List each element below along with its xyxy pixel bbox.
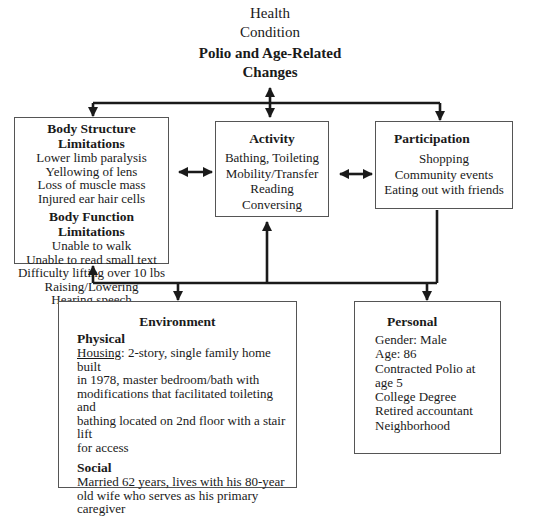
list-item: Unable to read small text: [15, 253, 168, 267]
list-item: Neighborhood: [375, 419, 496, 433]
list-item: Lower limb paralysis: [15, 151, 168, 165]
participation-header: Participation: [376, 131, 512, 146]
list-item: Conversing: [216, 197, 328, 213]
housing-line: in 1978, master bedroom/bath with: [77, 373, 288, 387]
personal-header: Personal: [375, 314, 496, 329]
title-line: Polio and Age-Related: [170, 44, 370, 63]
list-item: Community events: [376, 167, 512, 183]
label-line: Health: [170, 4, 370, 23]
health-condition-label: Health Condition: [170, 4, 370, 42]
list-item: Yellowing of lens: [15, 165, 168, 179]
list-item: College Degree: [375, 390, 496, 404]
list-item: Mobility/Transfer: [216, 166, 328, 182]
list-item: Eating out with friends: [376, 182, 512, 198]
housing-line: modifications that facilitated toileting…: [77, 387, 288, 414]
social-line: old wife who serves as his primary: [77, 489, 288, 503]
list-item: Age: 86: [375, 347, 496, 361]
physical-header: Physical: [77, 331, 288, 346]
list-item: Difficulty lifting over 10 lbs: [15, 266, 168, 280]
title-line: Changes: [170, 63, 370, 82]
list-item: Unable to walk: [15, 239, 168, 253]
list-item: Injured ear hair cells: [15, 192, 168, 206]
body-limitations-box: Body Structure Limitations Lower limb pa…: [14, 117, 169, 264]
list-item: Shopping: [376, 151, 512, 167]
body-structure-header: Body Structure Limitations: [15, 121, 168, 151]
social-header: Social: [77, 460, 288, 475]
list-item: Bathing, Toileting: [216, 150, 328, 166]
list-item: age 5: [375, 376, 496, 390]
housing-line: bathing located on 2nd floor with a stai…: [77, 414, 288, 441]
activity-box: Activity Bathing, Toileting Mobility/Tra…: [215, 121, 329, 217]
list-item: Retired accountant: [375, 404, 496, 418]
body-function-header: Body Function Limitations: [15, 209, 168, 239]
social-line: caregiver: [77, 502, 288, 516]
housing-line: Housing: 2-story, single family home bui…: [77, 346, 288, 373]
list-item: Reading: [216, 181, 328, 197]
social-line: Married 62 years, lives with his 80-year: [77, 475, 288, 489]
list-item: Gender: Male: [375, 333, 496, 347]
housing-line: for access: [77, 441, 288, 455]
list-item: Raising/Lowering: [15, 280, 168, 294]
health-condition-title: Polio and Age-Related Changes: [170, 44, 370, 82]
label-line: Condition: [170, 23, 370, 42]
environment-header: Environment: [67, 314, 288, 329]
activity-header: Activity: [216, 131, 328, 146]
list-item: Loss of muscle mass: [15, 178, 168, 192]
environment-box: Environment Physical Housing: 2-story, s…: [58, 301, 297, 488]
personal-box: Personal Gender: Male Age: 86 Contracted…: [354, 301, 501, 454]
list-item: Contracted Polio at: [375, 362, 496, 376]
participation-box: Participation Shopping Community events …: [375, 121, 513, 209]
